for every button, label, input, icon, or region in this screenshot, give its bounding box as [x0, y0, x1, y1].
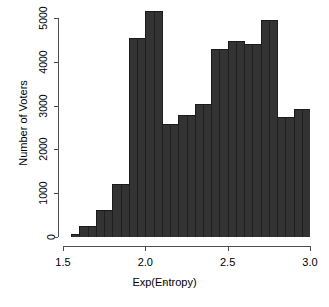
bar-divider: [104, 210, 105, 237]
bar-divider: [88, 226, 89, 237]
bar-divider: [96, 226, 97, 237]
bar-divider: [162, 11, 163, 237]
x-axis-line: [63, 246, 310, 247]
x-tick-label: 2.5: [208, 256, 248, 268]
histogram-plot: Number of Voters 010002000300040005000 1…: [0, 0, 329, 307]
bar-divider: [244, 41, 245, 237]
x-tick-mark: [310, 246, 311, 251]
bar-divider: [170, 124, 171, 237]
bar-divider: [302, 109, 303, 237]
bar-divider: [112, 210, 113, 237]
bar-divider: [187, 115, 188, 237]
x-tick-mark: [228, 246, 229, 251]
histogram-bar: [71, 234, 79, 237]
x-tick-label: 1.5: [43, 256, 83, 268]
stray-speck: [164, 282, 166, 284]
x-tick-label: 3.0: [290, 256, 329, 268]
bar-divider: [228, 49, 229, 237]
bar-divider: [79, 234, 80, 237]
bar-divider: [261, 44, 262, 237]
bar-divider: [211, 104, 212, 237]
bar-divider: [203, 104, 204, 237]
bar-divider: [219, 49, 220, 237]
bar-divider: [195, 115, 196, 237]
bar-divider: [129, 184, 130, 237]
x-tick-mark: [63, 246, 64, 251]
bar-divider: [269, 20, 270, 237]
bar-divider: [236, 41, 237, 237]
bar-divider: [178, 124, 179, 237]
x-tick-label: 2.0: [125, 256, 165, 268]
x-tick-mark: [145, 246, 146, 251]
bar-divider: [154, 11, 155, 237]
bar-divider: [285, 117, 286, 237]
bar-divider: [121, 184, 122, 237]
bar-divider: [277, 20, 278, 237]
bar-divider: [137, 38, 138, 237]
bar-divider: [252, 44, 253, 237]
bar-divider: [145, 38, 146, 237]
bar-divider: [294, 117, 295, 237]
